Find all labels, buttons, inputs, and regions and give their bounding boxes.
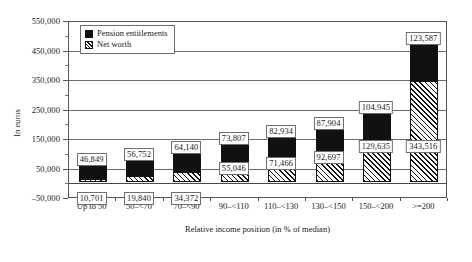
x-tick-mark: [352, 198, 353, 201]
y-tick-label: 150,000: [32, 134, 60, 144]
legend-swatch-networth-icon: [85, 41, 93, 49]
x-tick-label: 150–<200: [359, 201, 394, 211]
x-tick-label: 130–<150: [311, 201, 346, 211]
value-label-net-worth: 34,372: [171, 192, 201, 205]
value-label-net-worth: 129,635: [359, 140, 393, 153]
bar-segment-pension-entitlements: [173, 153, 201, 172]
x-tick-label: 110–<130: [264, 201, 298, 211]
x-tick-mark: [258, 198, 259, 201]
value-label-net-worth: 19,840: [124, 192, 154, 205]
bar-segment-pension-entitlements: [410, 44, 438, 80]
x-tick-mark: [400, 198, 401, 201]
value-label-net-worth: 92,697: [314, 151, 344, 164]
legend-item-pension-entitlements: Pension entitlements: [85, 28, 168, 39]
value-label-pension: 46,849: [77, 153, 107, 166]
value-label-net-worth: 343,516: [406, 140, 440, 153]
value-label-pension: 87,904: [314, 117, 344, 130]
bar-segment-pension-entitlements: [126, 160, 154, 177]
value-label-pension: 104,945: [359, 101, 393, 114]
value-label-net-worth: 10,701: [77, 192, 107, 205]
x-tick-label: >=200: [412, 201, 434, 211]
y-tick-label: 250,000: [32, 105, 60, 115]
chart-legend: Pension entitlements Net worth: [80, 25, 175, 54]
y-tick-label: 350,000: [32, 75, 60, 85]
legend-label-networth: Net worth: [97, 39, 131, 50]
bar-group: [316, 20, 344, 197]
x-tick-mark: [447, 198, 448, 201]
value-label-pension: 73,807: [219, 132, 249, 145]
value-label-pension: 82,934: [266, 125, 296, 138]
value-label-pension: 64,140: [171, 141, 201, 154]
legend-label-pension: Pension entitlements: [97, 28, 168, 39]
y-tick-label: –50,000: [32, 193, 60, 203]
chart-container: 550,000450,000350,000250,000150,00050,00…: [0, 0, 472, 262]
bar-group: [173, 20, 201, 197]
y-tick-mark: [63, 198, 68, 199]
y-axis-title: In euros: [12, 93, 22, 153]
y-tick-label: 450,000: [32, 46, 60, 56]
x-tick-mark: [115, 198, 116, 201]
value-label-net-worth: 55,046: [219, 162, 249, 175]
y-tick-label: 50,000: [36, 164, 60, 174]
value-label-pension: 56,752: [124, 148, 154, 161]
x-tick-mark: [163, 198, 164, 201]
bar-segment-net-worth: [410, 81, 438, 182]
bar-group: [410, 20, 438, 197]
bar-segment-net-worth: [79, 179, 107, 182]
legend-swatch-pension-icon: [85, 30, 93, 38]
y-axis: 550,000450,000350,000250,000150,00050,00…: [0, 0, 68, 262]
x-axis-title: Relative income position (in % of median…: [68, 224, 447, 234]
x-tick-mark: [305, 198, 306, 201]
value-label-net-worth: 71,466: [266, 157, 296, 170]
bar-segment-net-worth: [126, 176, 154, 182]
legend-item-net-worth: Net worth: [85, 39, 168, 50]
x-tick-mark: [210, 198, 211, 201]
x-tick-label: 90–<110: [219, 201, 249, 211]
bar-segment-pension-entitlements: [79, 165, 107, 179]
bar-segment-net-worth: [173, 172, 201, 182]
y-tick-label: 550,000: [32, 16, 60, 26]
value-label-pension: 123,587: [406, 32, 440, 45]
bar-group: [268, 20, 296, 197]
